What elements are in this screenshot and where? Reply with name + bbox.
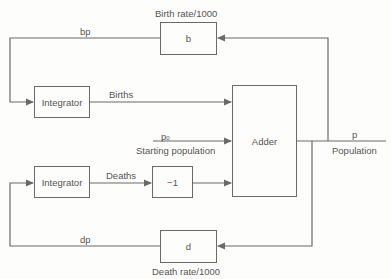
births-label: Births (109, 89, 133, 100)
death-rate-box: d (160, 230, 217, 263)
birth-rate-caption: Birth rate/1000 (155, 8, 217, 19)
adder-label: Adder (252, 136, 277, 147)
p0-label: p0 (161, 131, 170, 142)
death-rate-symbol: d (186, 241, 191, 252)
negate-box: −1 (152, 166, 193, 198)
adder-box: Adder (232, 85, 297, 197)
dp-label: dp (80, 234, 91, 245)
deaths-label: Deaths (106, 170, 136, 181)
death-rate-caption: Death rate/1000 (152, 266, 220, 277)
integrator-births-label: Integrator (42, 97, 83, 108)
p-output-label: p (352, 129, 357, 140)
p0-subscript: 0 (166, 135, 169, 141)
starting-population-label: Starting population (136, 145, 215, 156)
integrator-deaths-label: Integrator (42, 177, 83, 188)
population-model-diagram: b Integrator Adder Integrator −1 d Birth… (0, 0, 391, 279)
integrator-births-box: Integrator (34, 86, 90, 118)
bp-label: bp (80, 26, 91, 37)
birth-rate-symbol: b (186, 33, 191, 44)
integrator-deaths-box: Integrator (34, 166, 90, 198)
negate-label: −1 (167, 177, 178, 188)
population-label: Population (332, 145, 377, 156)
birth-rate-box: b (160, 22, 217, 55)
